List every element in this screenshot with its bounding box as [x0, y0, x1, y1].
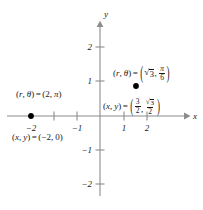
x-tick-label--1: −1 — [72, 124, 83, 133]
y-tick-label--1: −1 — [78, 146, 92, 155]
square-root-3: √3 — [144, 68, 154, 78]
comma: , — [19, 133, 21, 142]
fraction-sqrt3-over-2: √3 2 — [145, 98, 156, 115]
annotation-right-polar: ( r , θ ) = ( √3 , π 6 ) — [113, 65, 170, 82]
comma: , — [120, 69, 122, 78]
comma: , — [23, 90, 25, 99]
value-x: −2 — [41, 133, 51, 142]
fraction-numerator: √3 — [145, 98, 156, 107]
x-tick-label-1: 1 — [122, 124, 127, 133]
comma-2: , — [154, 69, 156, 78]
comma: , — [110, 102, 112, 111]
fraction-numerator: π — [159, 65, 165, 73]
comma-2: , — [51, 133, 53, 142]
annotation-left-polar: ( r , θ ) = ( 2 , π ) — [16, 90, 62, 99]
polar-coordinates-figure: x y −2 −1 1 2 2 1 −1 −2 ( r , θ ) = ( 2 … — [0, 0, 203, 210]
x-axis-arrowhead — [184, 113, 191, 120]
paren-close-big: ) — [166, 64, 169, 83]
radicand: 3 — [150, 99, 155, 107]
fraction-3-over-2: 3 2 — [135, 98, 141, 115]
paren-open-big: ( — [130, 97, 133, 116]
fraction-pi-over-6: π 6 — [159, 65, 165, 82]
square-root-3: √3 — [146, 98, 155, 107]
fraction-denominator: 2 — [135, 106, 141, 115]
y-axis-label: y — [104, 10, 108, 19]
annotation-left-rect: ( x , y ) = ( −2 , 0 ) — [12, 133, 63, 142]
equals-sign: = — [131, 69, 139, 78]
equals-sign: = — [34, 90, 42, 99]
annotation-right-rect: ( x , y ) = ( 3 2 , √3 2 ) — [103, 98, 161, 115]
y-tick-label-2: 2 — [82, 43, 92, 52]
data-point-right — [133, 83, 139, 89]
paren-close-2: ) — [59, 90, 62, 99]
plot-canvas — [0, 0, 203, 210]
x-axis-label: x — [193, 112, 197, 121]
equals-sign: = — [121, 102, 129, 111]
y-tick-label-1: 1 — [82, 77, 92, 86]
y-tick-label--2: −2 — [78, 180, 92, 189]
equals-sign: = — [30, 133, 38, 142]
x-tick-label-2: 2 — [145, 124, 150, 133]
fraction-denominator: 2 — [147, 107, 153, 116]
data-point-left — [28, 113, 34, 119]
comma-2: , — [50, 90, 52, 99]
fraction-denominator: 6 — [159, 73, 165, 82]
paren-close-big: ) — [157, 97, 160, 116]
fraction-numerator: 3 — [135, 98, 141, 106]
comma-2: , — [141, 105, 143, 115]
paren-open-big: ( — [140, 64, 143, 83]
y-axis-arrowhead — [97, 21, 104, 27]
paren-close-2: ) — [60, 133, 63, 142]
